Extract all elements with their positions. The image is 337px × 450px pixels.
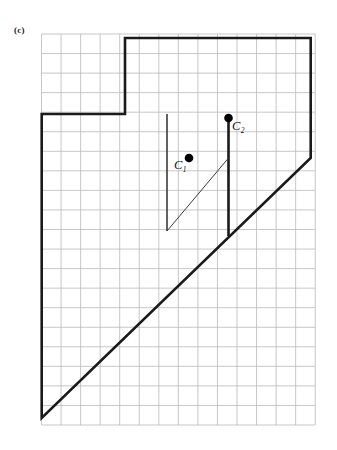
point-label-c1-letter: C <box>174 158 182 172</box>
point-label-c1: C1 <box>174 159 186 172</box>
figure-container: (c) C1 C2 <box>0 0 337 450</box>
grid-layer <box>42 34 316 425</box>
point-label-c1-subscript: 1 <box>183 165 187 174</box>
shape-outer-polygon <box>42 38 311 418</box>
shape-layer <box>42 38 311 418</box>
figure-canvas <box>0 0 337 450</box>
point-layer <box>185 114 233 163</box>
point-label-c2-letter: C <box>232 119 240 133</box>
point-label-c2-subscript: 2 <box>241 126 245 135</box>
point-label-c2: C2 <box>232 120 244 133</box>
